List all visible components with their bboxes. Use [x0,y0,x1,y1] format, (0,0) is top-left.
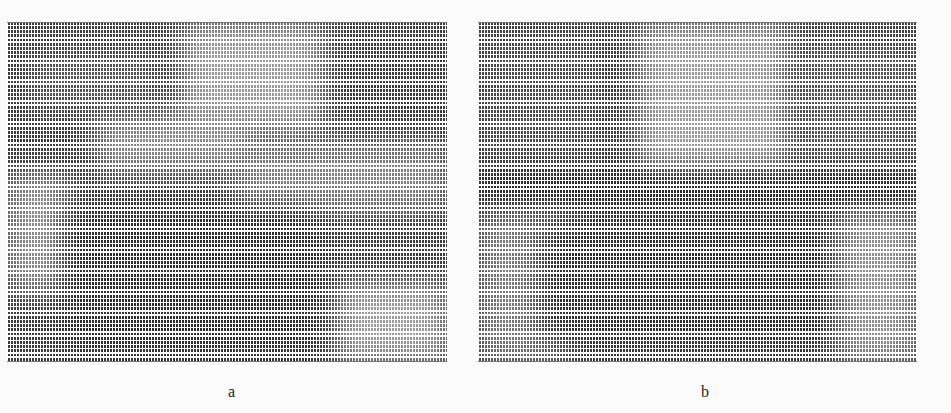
panel-a-grid-pattern [7,22,447,362]
panel-b-top-border [478,22,917,23]
panel-a-bottom-border [7,361,447,362]
figure-panel-a [7,22,447,362]
panel-b-bottom-border [478,361,917,362]
panel-b-caption: b [701,383,709,401]
figure-panel-b [478,22,917,362]
panel-a-top-border [7,22,447,23]
panel-a-caption: a [228,383,235,401]
panel-b-grid-pattern [478,22,917,362]
